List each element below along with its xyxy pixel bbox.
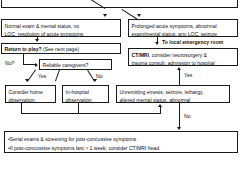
node-prolonged-line1: Prolonged acute symptoms, abnormal [132,22,235,30]
node-ct-mri-line2: trauma consult, admission to hospital [132,59,235,67]
arrow-normal-to-rtp [35,39,39,42]
node-ct-mri: CT/MRI, consider neurosurgery & trauma c… [128,48,238,66]
node-return-to-play: Return to play? (See next page) [1,43,121,54]
connector-caregivers-yes [55,70,60,82]
node-bottom-line1: •Serial exams & screening for post-concu… [8,135,234,144]
node-ct-mri-bold: CT/MRI [132,52,149,58]
connector-observation-merge [21,113,161,114]
node-unremitting-symptoms: Unremitting emesis, seizure, lethargy, a… [116,85,230,103]
node-bottom-line2: •If post-concussive symptoms last > 1 we… [8,144,234,153]
arrow-unremitting-yes-to-ctmri [177,67,181,70]
connector-split-right [121,9,136,19]
node-prolonged-symptoms: Prolonged acute symptoms, abnormal exam/… [128,19,238,37]
node-in-hospital-observation: In-hospital observation [62,85,109,103]
node-normal-exam: Normal exam & mental status, no LOC, res… [1,19,121,37]
node-consider-home-observation: Consider home observation [5,85,56,103]
arrow-merge-into-unremitting [158,104,162,107]
node-return-to-play-text: Return to play? (See next page) [5,46,118,53]
edge-label-caregivers-no: No [96,74,103,79]
node-ct-mri-line1: CT/MRI, consider neurosurgery & [132,51,235,59]
connector-caregivers-yes-line [27,69,36,81]
arrow-prolonged-to-er [155,42,159,45]
edge-label-to-local-emergency-room: To local emergency room [162,40,223,45]
node-reliable-caregivers-text: Reliable caregivers? [43,62,109,69]
node-reliable-caregivers: Reliable caregivers? [39,59,112,70]
node-consider-home-line1: Consider home [9,88,53,96]
node-unremitting-line1: Unremitting emesis, seizure, lethargy, [120,88,227,96]
arrow-rtp-to-caregivers [35,63,38,67]
flowchart-canvas: Normal exam & mental status, no LOC, res… [0,0,245,172]
node-normal-exam-line2: LOC, resolution of acute symptoms [5,30,118,38]
connector-merge-up [160,106,161,114]
node-ct-mri-line1-rest: , consider neurosurgery & [149,52,207,58]
node-in-hospital-line2: observation [66,96,106,104]
arrow-unremitting-no-to-bottom [177,127,181,130]
node-return-to-play-normal: (See next page) [42,46,79,52]
edge-label-caregivers-yes: Yes [38,74,46,79]
arrow-split-to-prolonged [137,14,141,17]
arrow-split-to-normal-exam [103,14,107,17]
edge-label-no-question: No? [5,61,14,66]
connector-unremitting-no-down [179,103,180,129]
node-return-to-play-bold: Return to play? [5,46,42,52]
node-top-partial [1,0,238,8]
node-normal-exam-line1: Normal exam & mental status, no [5,22,118,30]
connector-unremitting-yes-up [179,69,180,85]
node-consider-home-line2: observation [9,96,53,104]
node-in-hospital-line1: In-hospital [66,88,106,96]
node-prolonged-line2: exam/mental status, any LOC, seizure [132,30,235,38]
arrow-caregivers-no [93,79,97,82]
node-unremitting-line2: altered mental status, abnormal [120,96,227,104]
edge-label-unremitting-yes: Yes [184,73,192,78]
edge-label-unremitting-no: No [184,114,191,119]
node-bottom-followup: •Serial exams & screening for post-concu… [4,131,238,153]
